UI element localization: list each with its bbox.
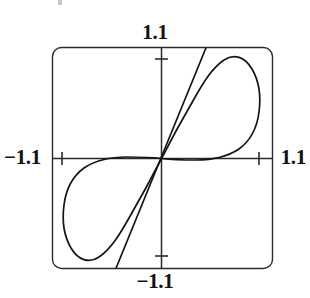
plot-figure: 1.1 −1.1 −1.1 1.1 [0,0,310,298]
x-axis-max-label: 1.1 [281,147,306,168]
y-axis-max-label: 1.1 [0,22,310,43]
y-axis-min-label: −1.1 [0,271,310,292]
plot-canvas [0,0,310,298]
scan-artifact-speck [58,0,62,5]
x-axis-min-label: −1.1 [4,147,41,168]
curve-lower-lobe [63,157,161,260]
curve-upper-lobe [162,57,260,160]
